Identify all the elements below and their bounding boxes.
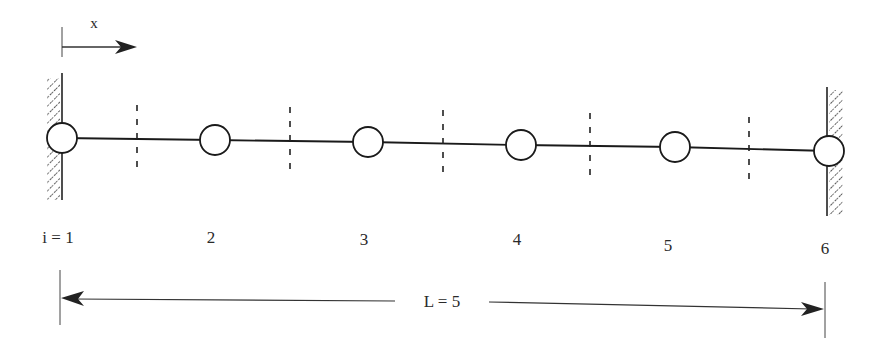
- node-5: [660, 132, 690, 162]
- node-2: [200, 125, 230, 155]
- node-label-5: 5: [664, 236, 673, 255]
- node-3: [353, 127, 383, 157]
- node-label-1: i = 1: [42, 228, 73, 247]
- bar-line: [62, 138, 829, 151]
- length-dimension: L = 5: [60, 270, 825, 338]
- length-label: L = 5: [424, 292, 460, 311]
- diagram-canvas: x: [0, 0, 881, 359]
- node-6: [814, 136, 844, 166]
- x-axis-label: x: [90, 15, 98, 31]
- node-labels: i = 1 2 3 4 5 6: [42, 228, 829, 258]
- node-label-2: 2: [207, 228, 216, 247]
- nodes: [47, 123, 844, 166]
- node-1: [47, 123, 77, 153]
- node-4: [506, 130, 536, 160]
- node-label-4: 4: [513, 230, 522, 249]
- x-axis-indicator: x: [62, 15, 137, 57]
- node-label-3: 3: [360, 230, 369, 249]
- node-label-6: 6: [821, 239, 830, 258]
